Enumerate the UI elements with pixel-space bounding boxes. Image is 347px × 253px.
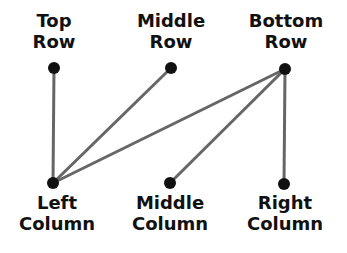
label-line: Top bbox=[0, 10, 109, 31]
node-dot-right-column bbox=[278, 178, 290, 190]
label-line: Row bbox=[231, 31, 341, 52]
label-line: Bottom bbox=[231, 10, 341, 31]
node-dot-middle-column bbox=[164, 177, 176, 189]
edge-bottom-row-right-column bbox=[284, 69, 285, 184]
label-line: Column bbox=[115, 213, 225, 234]
label-middle-row: Middle Row bbox=[116, 10, 226, 52]
label-line: Middle bbox=[116, 10, 226, 31]
node-dot-top-row bbox=[48, 62, 60, 74]
edge-top-row-left-column bbox=[53, 68, 54, 183]
diagram-canvas: Top Row Middle Row Bottom Row Left Colum… bbox=[0, 0, 347, 253]
label-line: Left bbox=[2, 192, 112, 213]
label-left-column: Left Column bbox=[2, 192, 112, 234]
label-line: Right bbox=[230, 192, 340, 213]
label-right-column: Right Column bbox=[230, 192, 340, 234]
label-bottom-row: Bottom Row bbox=[231, 10, 341, 52]
label-middle-column: Middle Column bbox=[115, 192, 225, 234]
label-top-row: Top Row bbox=[0, 10, 109, 52]
label-line: Column bbox=[2, 213, 112, 234]
label-line: Column bbox=[230, 213, 340, 234]
label-line: Row bbox=[0, 31, 109, 52]
edge-bottom-row-middle-column bbox=[170, 69, 285, 183]
edge-bottom-row-left-column bbox=[53, 69, 285, 183]
node-dot-middle-row bbox=[165, 62, 177, 74]
node-dot-left-column bbox=[47, 177, 59, 189]
node-dot-bottom-row bbox=[279, 63, 291, 75]
label-line: Middle bbox=[115, 192, 225, 213]
edge-middle-row-left-column bbox=[53, 68, 171, 183]
label-line: Row bbox=[116, 31, 226, 52]
